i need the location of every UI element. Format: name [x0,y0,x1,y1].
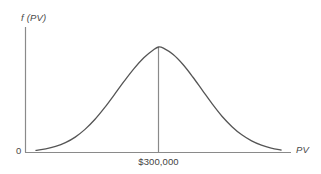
probability-density-figure: f (PV) PV 0 $300,000 [0,0,321,174]
y-axis-label: f (PV) [21,12,46,23]
mean-tick-label: $300,000 [0,156,317,167]
x-axis-label: PV [296,144,309,155]
origin-label: 0 [16,145,21,156]
chart-canvas [0,0,321,174]
